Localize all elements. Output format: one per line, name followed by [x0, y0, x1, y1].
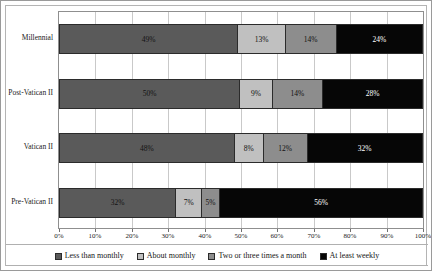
bar-segment-value-label: 50% [143, 90, 157, 98]
plot-area: 49%13%14%24%50%9%14%28%48%8%12%32%32%7%5… [58, 11, 424, 229]
bar-segment-value-label: 13% [255, 36, 269, 44]
bar-segment-value-label: 28% [366, 90, 380, 98]
bar-segment: 49% [59, 24, 237, 54]
bar-row: 49%13%14%24% [59, 24, 423, 54]
y-axis-tick-label: Millennial [22, 34, 53, 42]
bar-segment-value-label: 24% [372, 36, 386, 44]
bar-segment: 13% [237, 24, 284, 54]
bar-segment: 5% [201, 188, 219, 218]
bar-segment-value-label: 48% [140, 145, 154, 153]
x-axis-tick-label: 50% [235, 233, 248, 240]
bar-segment: 14% [272, 79, 322, 109]
legend-label: At least weekly [330, 252, 380, 260]
legend: Less than monthlyAbout monthlyTwo or thr… [6, 246, 428, 266]
bar-segment: 9% [239, 79, 271, 109]
bar-row: 50%9%14%28% [59, 79, 423, 109]
legend-swatch-icon [208, 253, 215, 260]
bar-segment-value-label: 32% [358, 145, 372, 153]
x-axis-tick-label: 90% [381, 233, 394, 240]
x-axis-tick-label: 40% [199, 233, 212, 240]
legend-item[interactable]: At least weekly [320, 252, 380, 260]
legend-label: About monthly [147, 252, 196, 260]
y-axis-tick-label: Pre-Vatican II [11, 198, 53, 206]
bar-segment-value-label: 56% [314, 199, 328, 207]
legend-label: Two or three times a month [218, 252, 306, 260]
bar-segment: 8% [234, 133, 263, 163]
bar-segment: 12% [263, 133, 307, 163]
y-axis-tick-label: Vatican II [24, 143, 53, 151]
legend-swatch-icon [55, 253, 62, 260]
x-axis: 0%10%20%30%40%50%60%70%80%90%100% [58, 229, 424, 243]
bar-segment-value-label: 14% [290, 90, 304, 98]
bar-segment-value-label: 8% [244, 145, 254, 153]
bar-row: 48%8%12%32% [59, 133, 423, 163]
bar-segment: 48% [59, 133, 234, 163]
legend-item[interactable]: Two or three times a month [208, 252, 306, 260]
y-axis-category-labels: MillennialPost-Vatican IIVatican IIPre-V… [1, 11, 58, 229]
x-axis-tick-label: 60% [271, 233, 284, 240]
x-axis-tick-label: 100% [415, 233, 431, 240]
x-axis-tick-label: 70% [308, 233, 321, 240]
x-axis-tick-label: 80% [344, 233, 357, 240]
bar-segment-value-label: 14% [304, 36, 318, 44]
bar-segment-value-label: 49% [142, 36, 156, 44]
bar-segment: 32% [307, 133, 423, 163]
bar-segment: 32% [59, 188, 175, 218]
legend-item[interactable]: About monthly [137, 252, 196, 260]
bar-segment-value-label: 7% [184, 199, 194, 207]
bar-segment: 24% [336, 24, 423, 54]
y-axis-tick-label: Post-Vatican II [8, 89, 53, 97]
legend-label: Less than monthly [65, 252, 124, 260]
legend-swatch-icon [320, 253, 327, 260]
bar-segment-value-label: 5% [206, 199, 216, 207]
x-axis-tick-label: 10% [89, 233, 102, 240]
bar-segment-value-label: 32% [111, 199, 125, 207]
x-axis-tick-label: 30% [162, 233, 175, 240]
x-axis-tick-label: 0% [54, 233, 63, 240]
chart-figure: MillennialPost-Vatican IIVatican IIPre-V… [0, 0, 432, 271]
legend-swatch-icon [137, 253, 144, 260]
bar-segment: 56% [219, 188, 423, 218]
bar-segment-value-label: 9% [251, 90, 261, 98]
bar-segment-value-label: 12% [278, 145, 292, 153]
bar-segment: 50% [59, 79, 239, 109]
bar-segment: 7% [175, 188, 200, 218]
legend-divider-bottom [6, 265, 428, 266]
bar-segment: 28% [322, 79, 423, 109]
legend-item[interactable]: Less than monthly [55, 252, 124, 260]
stacked-bars: 49%13%14%24%50%9%14%28%48%8%12%32%32%7%5… [59, 12, 423, 228]
x-axis-tick-label: 20% [126, 233, 139, 240]
bar-row: 32%7%5%56% [59, 188, 423, 218]
legend-divider-top [6, 244, 428, 245]
bar-segment: 14% [285, 24, 336, 54]
